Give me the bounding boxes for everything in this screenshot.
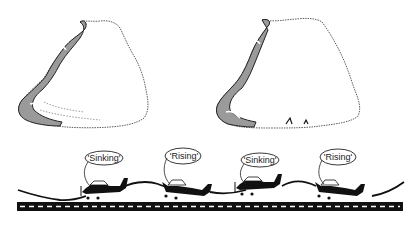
right-cloud	[216, 18, 359, 128]
label-bubble-4: 'Rising'	[319, 149, 356, 184]
airplane-1	[81, 178, 128, 200]
label-rising-2: 'Rising'	[324, 152, 353, 162]
diagram-canvas: 'Sinking' 'Rising' 'Sinking' 'Rising'	[0, 0, 419, 225]
label-sinking-1: 'Sinking'	[88, 153, 121, 163]
label-rising-1: 'Rising'	[170, 151, 199, 161]
airplane-3	[235, 174, 282, 196]
label-bubble-2: 'Rising'	[164, 148, 201, 184]
label-sinking-2: 'Sinking'	[244, 155, 277, 165]
left-cloud	[19, 21, 148, 128]
runway	[17, 202, 403, 211]
